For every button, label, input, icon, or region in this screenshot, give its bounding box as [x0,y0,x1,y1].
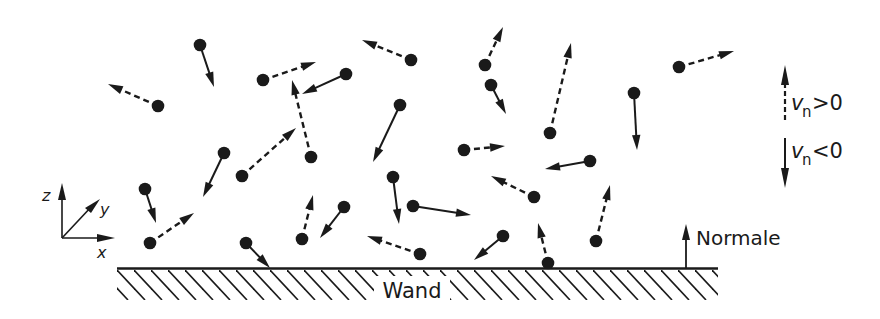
normal-indicator: Normale [682,224,781,268]
molecule-dot [479,59,492,72]
particle [240,237,270,268]
particle [257,62,316,86]
molecule-dot [528,191,541,204]
arrow-head-icon [545,162,561,170]
velocity-vector-dashed [379,240,420,254]
arrow-head-icon [602,185,610,201]
arrow-head-icon [203,182,213,197]
arrow-head-icon [393,209,401,224]
particle [320,201,350,238]
normal-arrow-head-icon [682,224,690,240]
arrow-head-icon [367,236,383,245]
legend-up-arrow-icon [781,65,789,85]
molecule-dot [497,230,510,243]
arrow-head-icon [147,207,156,223]
arrow-head-icon [632,135,640,150]
particle [302,68,352,94]
particle [458,143,505,156]
velocity-vector-solid [379,105,400,150]
x-axis-arrow-icon [97,234,115,242]
molecule-dot [414,248,427,261]
legend-negative: v n <0 [781,138,843,188]
z-axis-label: z [41,186,51,205]
molecule-dot [144,237,157,250]
particle [236,128,296,182]
particle [491,176,540,203]
particles-layer [108,27,734,269]
arrow-head-icon [373,147,383,162]
arrow-head-icon [490,143,505,151]
molecule-wall-diagram: Wand Normale z y x v n >0 v n <0 [0,0,880,319]
legend-positive-subscript: n [802,103,812,121]
particle [373,99,406,162]
molecule-dot [544,127,557,140]
molecule-dot [485,79,498,92]
legend-negative-relation: <0 [812,139,843,163]
arrow-head-icon [205,71,214,87]
velocity-legend: v n >0 v n <0 [781,65,843,188]
molecule-dot [394,99,407,112]
y-axis [62,206,92,238]
velocity-vector-dashed [295,93,311,157]
particle [474,230,509,260]
molecule-dot [628,87,641,100]
molecule-dot [194,39,207,52]
particle [545,155,596,171]
molecule-dot [296,233,309,246]
particle [628,87,641,150]
molecule-dot [407,200,420,213]
normal-label: Normale [696,226,781,250]
z-axis-arrow-icon [58,183,66,200]
molecule-dot [405,54,418,67]
wall-label: Wand [383,279,442,303]
molecule-dot [257,74,270,87]
x-axis-label: x [96,243,107,262]
arrow-head-icon [495,99,506,114]
particle [108,84,164,112]
arrow-head-icon [108,84,123,94]
coordinate-axes: z y x [41,183,115,262]
legend-positive-relation: >0 [812,91,843,115]
velocity-vector-dashed [596,198,607,241]
arrow-head-icon [718,51,734,59]
molecule-dot [387,171,400,184]
molecule-dot [236,170,249,183]
particle [538,223,555,269]
molecule-dot [458,144,471,157]
molecule-dot [152,100,165,113]
arrow-head-icon [305,195,313,211]
velocity-vector-dashed [679,55,722,67]
legend-down-arrow-icon [781,168,789,188]
molecule-dot [240,237,253,250]
legend-positive: v n >0 [781,65,843,121]
particle [296,195,314,245]
particle [485,79,506,114]
legend-negative-subscript: n [802,151,812,169]
molecule-dot [218,147,231,160]
y-axis-label: y [99,200,110,219]
molecule-dot [673,61,686,74]
particle [544,43,572,139]
velocity-vector-dashed [550,56,568,133]
particle [362,40,417,66]
particle [673,51,734,73]
arrow-head-icon [362,40,377,50]
velocity-vector-solid [634,93,636,137]
arrow-head-icon [493,27,503,42]
molecule-dot [305,151,318,164]
arrow-head-icon [302,84,317,94]
particle [479,27,503,71]
molecule-dot [590,235,603,248]
particle [139,183,156,223]
arrow-head-icon [456,209,471,217]
arrow-head-icon [179,213,194,225]
wall: Wand [117,269,718,304]
molecule-dot [338,201,351,214]
velocity-vector-solid [413,206,458,213]
arrow-head-icon [292,80,300,96]
particle [590,185,611,247]
arrow-head-icon [300,62,316,71]
molecule-dot [542,257,555,270]
particle [194,39,214,87]
molecule-dot [584,155,597,168]
